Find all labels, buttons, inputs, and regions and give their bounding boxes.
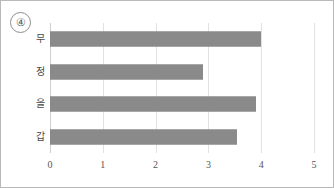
x-axis-tick-1: 1	[88, 160, 118, 170]
x-axis-tick-0: 0	[35, 160, 65, 170]
x-axis-tick-2: 2	[141, 160, 171, 170]
bar-row	[50, 56, 314, 89]
bar-을[interactable]	[50, 97, 256, 112]
chart-figure: ④ 무정을갑012345	[0, 0, 334, 188]
gridline-5	[314, 23, 315, 153]
bar-무[interactable]	[50, 32, 261, 47]
bar-row	[50, 121, 314, 154]
y-axis-label-을: 을	[5, 99, 45, 109]
bar-row	[50, 23, 314, 56]
bar-정[interactable]	[50, 64, 203, 79]
plot-area	[50, 23, 314, 153]
y-axis-label-무: 무	[5, 34, 45, 44]
x-axis-tick-3: 3	[193, 160, 223, 170]
y-axis-label-갑: 갑	[5, 132, 45, 142]
bar-chart: 무정을갑012345	[1, 1, 334, 188]
bar-갑[interactable]	[50, 129, 237, 144]
bar-row	[50, 88, 314, 121]
y-axis-label-정: 정	[5, 67, 45, 77]
x-axis-tick-5: 5	[299, 160, 329, 170]
x-axis-tick-4: 4	[246, 160, 276, 170]
